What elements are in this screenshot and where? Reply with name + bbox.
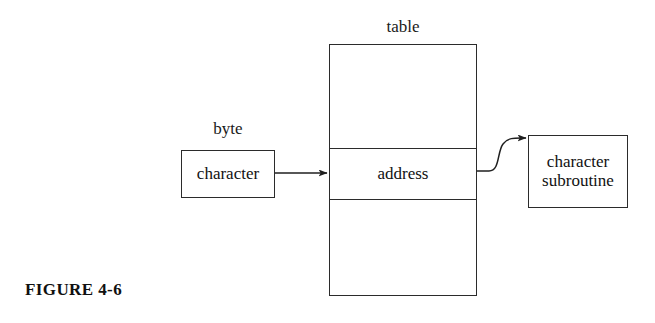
byte-label: byte: [184, 120, 272, 137]
table-cell-address-text: address: [378, 164, 429, 184]
character-byte-box-text: character: [197, 165, 259, 183]
table-to-subroutine-arrow: [477, 138, 526, 171]
table-cell-address: address: [330, 148, 476, 199]
table-cell-lower: [330, 199, 476, 295]
table-cell-upper: [330, 45, 476, 148]
character-byte-box: character: [181, 150, 275, 198]
figure-caption: FIGURE 4-6: [25, 280, 122, 300]
character-subroutine-box-text: character subroutine: [542, 153, 614, 189]
figure-canvas: table address byte character character s…: [0, 0, 655, 323]
character-subroutine-box: character subroutine: [528, 135, 628, 208]
table-label: table: [359, 18, 447, 35]
table-box: address: [329, 44, 477, 296]
